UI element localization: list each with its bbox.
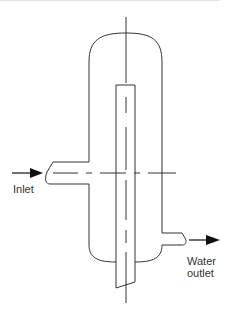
outlet-pipe-end	[182, 233, 186, 245]
inlet-label: Inlet	[13, 183, 34, 195]
water-outlet-label-line1: Water	[187, 255, 216, 267]
vessel-bottom-head-left	[89, 245, 116, 262]
inlet-pipe-end	[46, 162, 53, 184]
outlet-arrow-icon	[189, 235, 220, 245]
vessel-bottom-head-right	[135, 245, 162, 262]
water-outlet-nozzle	[162, 233, 186, 245]
diagram-canvas: Inlet Water outlet	[0, 0, 231, 315]
water-outlet-label-line2: outlet	[187, 267, 214, 279]
vessel-diagram: Inlet Water outlet	[0, 0, 231, 315]
inlet-arrow-icon	[12, 168, 43, 178]
